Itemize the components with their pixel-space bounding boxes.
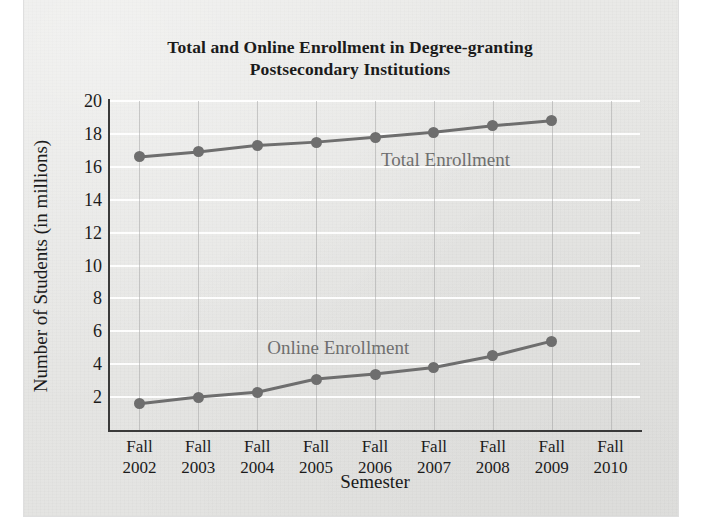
data-point-marker <box>193 392 204 403</box>
y-axis-label: Number of Students (in millions) <box>30 116 52 416</box>
y-tick-label: 18 <box>62 123 102 144</box>
data-point-marker <box>546 336 557 347</box>
series-lines <box>110 101 640 430</box>
chart-title-line-2: Postsecondary Institutions <box>60 58 640 80</box>
x-tick-label: Fall2010 <box>576 436 646 478</box>
y-tick-label: 16 <box>62 156 102 177</box>
chart-title-line-1: Total and Online Enrollment in Degree-gr… <box>60 36 640 58</box>
x-axis-line <box>108 430 642 432</box>
y-tick-label: 20 <box>62 91 102 112</box>
data-point-marker <box>252 140 263 151</box>
x-axis-ticks: Fall2002Fall2003Fall2004Fall2005Fall2006… <box>110 436 640 482</box>
data-point-marker <box>370 132 381 143</box>
y-tick-label: 14 <box>62 189 102 210</box>
x-tick-label-year: 2010 <box>576 457 646 478</box>
data-point-marker <box>370 369 381 380</box>
series-label-online-enrollment: Online Enrollment <box>267 337 409 359</box>
y-tick-label: 10 <box>62 255 102 276</box>
data-point-marker <box>311 137 322 148</box>
x-tick-label-season: Fall <box>576 436 646 457</box>
plot-area: Total Enrollment Online Enrollment <box>110 101 640 430</box>
y-tick-label: 8 <box>62 288 102 309</box>
y-tick-label: 6 <box>62 321 102 342</box>
y-tick-label: 2 <box>62 387 102 408</box>
y-axis-ticks: 2018161412108642 <box>58 101 102 430</box>
chart-title: Total and Online Enrollment in Degree-gr… <box>60 36 640 80</box>
y-tick-label: 12 <box>62 222 102 243</box>
chart-page: Total and Online Enrollment in Degree-gr… <box>0 0 701 527</box>
data-point-marker <box>252 387 263 398</box>
data-point-marker <box>311 374 322 385</box>
series-label-total-enrollment: Total Enrollment <box>381 149 510 171</box>
y-tick-label: 4 <box>62 354 102 375</box>
